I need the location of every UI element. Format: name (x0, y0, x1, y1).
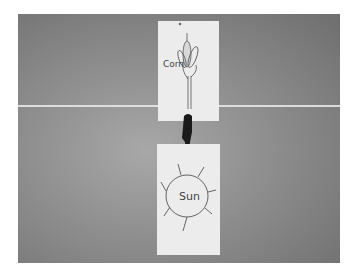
card-label: Sun (179, 190, 200, 203)
corn-icon (158, 21, 219, 121)
card-corn: Corn (158, 21, 219, 121)
photo: Corn Sun (18, 14, 340, 263)
card-label: Corn (163, 59, 184, 69)
card-sun: Sun (157, 144, 220, 255)
